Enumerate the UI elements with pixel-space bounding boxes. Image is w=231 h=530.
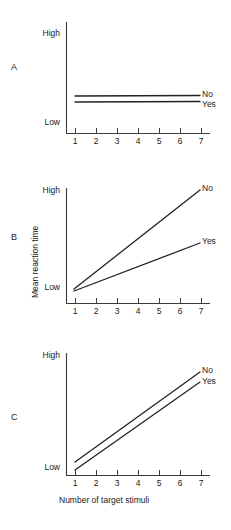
panel-c-series-yes (75, 382, 200, 470)
panel-b-xtick-6: 6 (173, 306, 187, 316)
panel-b: B Mean reaction time High Low No Yes 1 2… (0, 170, 231, 345)
panel-a: A High Low No Yes 1 2 3 4 5 6 7 (0, 0, 231, 175)
panel-c-x-ticks (76, 470, 202, 476)
panel-b-series-no (74, 190, 200, 289)
panel-b-xtick-3: 3 (110, 306, 124, 316)
panel-c-xtick-5: 5 (152, 478, 166, 488)
panel-a-xtick-1: 1 (68, 136, 82, 146)
panel-b-series-label-no: No (202, 183, 213, 193)
panel-c-xtick-4: 4 (131, 478, 145, 488)
panel-c-series-label-yes: Yes (202, 376, 216, 386)
panel-b-xtick-5: 5 (152, 306, 166, 316)
panel-a-series-label-yes: Yes (202, 99, 216, 109)
x-axis-title: Number of target stimuli (59, 495, 149, 505)
panel-c-xtick-6: 6 (173, 478, 187, 488)
panel-a-axes (67, 22, 211, 134)
panel-a-series-no (75, 96, 200, 97)
panel-a-plot (0, 0, 231, 175)
panel-a-xtick-3: 3 (110, 136, 124, 146)
panel-c-xtick-1: 1 (68, 478, 82, 488)
figure-three-panel-line-charts: A High Low No Yes 1 2 3 4 5 6 7 (0, 0, 231, 530)
panel-b-x-ticks (76, 298, 202, 304)
panel-c-series-no (75, 372, 200, 462)
panel-b-plot (0, 170, 231, 345)
panel-a-xtick-4: 4 (131, 136, 145, 146)
panel-b-xtick-4: 4 (131, 306, 145, 316)
panel-a-xtick-6: 6 (173, 136, 187, 146)
panel-b-series-label-yes: Yes (202, 236, 216, 246)
panel-c-xtick-7: 7 (194, 478, 208, 488)
panel-a-series-yes (75, 102, 200, 103)
panel-b-xtick-1: 1 (68, 306, 82, 316)
panel-c-xtick-3: 3 (110, 478, 124, 488)
panel-a-xtick-2: 2 (89, 136, 103, 146)
panel-a-xtick-5: 5 (152, 136, 166, 146)
panel-b-xtick-2: 2 (89, 306, 103, 316)
panel-c-xtick-2: 2 (89, 478, 103, 488)
panel-b-xtick-7: 7 (194, 306, 208, 316)
panel-a-x-ticks (76, 128, 202, 134)
panel-a-series-label-no: No (202, 89, 213, 99)
panel-c: C High Low No Yes 1 2 3 4 5 6 7 Number (0, 340, 231, 530)
panel-c-axes (67, 353, 211, 476)
panel-b-series-yes (74, 243, 200, 291)
panel-c-series-label-no: No (202, 365, 213, 375)
panel-a-xtick-7: 7 (194, 136, 208, 146)
